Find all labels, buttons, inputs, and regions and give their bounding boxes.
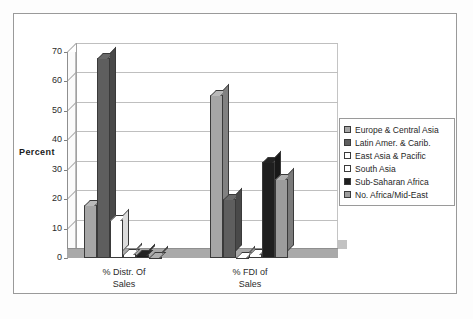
chart-page: 010203040506070 % Distr. OfSales% FDI of… — [0, 0, 473, 319]
plot-floor-right — [338, 240, 347, 249]
x-axis-label: % FDI ofSales — [190, 266, 310, 290]
legend-item-label: Sub-Saharan Africa — [355, 177, 429, 187]
bar — [136, 255, 149, 258]
bar-side-face — [236, 188, 242, 251]
legend-item-label: Europe & Central Asia — [355, 125, 439, 135]
y-axis-tick-label: 50 — [40, 105, 62, 115]
x-axis-label-line: % Distr. Of — [64, 266, 184, 278]
y-axis-tick-label: 0 — [40, 252, 62, 262]
y-axis-tick-label: 40 — [40, 134, 62, 144]
legend-item-label: East Asia & Pacific — [355, 151, 426, 161]
bar — [275, 179, 288, 258]
legend-item-label: Latin Amer. & Carib. — [355, 138, 431, 148]
bar — [249, 254, 262, 258]
bar — [110, 220, 123, 258]
plot-wall-right-edge — [337, 43, 338, 249]
bar-side-face — [123, 209, 129, 251]
bar — [97, 58, 110, 258]
bar — [210, 95, 223, 258]
legend-swatch-icon — [344, 152, 351, 159]
x-axis-label-line: Sales — [190, 278, 310, 290]
y-axis-tick-label: 60 — [40, 75, 62, 85]
legend: Europe & Central AsiaLatin Amer. & Carib… — [339, 118, 455, 206]
y-axis-title: Percent — [19, 147, 55, 157]
plot-area: 010203040506070 % Distr. OfSales% FDI of… — [14, 14, 458, 295]
chart-frame: 010203040506070 % Distr. OfSales% FDI of… — [13, 13, 457, 294]
gridline — [76, 43, 338, 44]
bar — [236, 257, 249, 259]
legend-item[interactable]: Europe & Central Asia — [344, 123, 451, 136]
legend-item[interactable]: Sub-Saharan Africa — [344, 175, 451, 188]
legend-item-label: No. Africa/Mid-East — [355, 190, 428, 200]
legend-item-label: South Asia — [355, 164, 396, 174]
legend-item[interactable]: East Asia & Pacific — [344, 149, 451, 162]
legend-swatch-icon — [344, 191, 351, 198]
legend-swatch-icon — [344, 178, 351, 185]
bar — [84, 205, 97, 258]
legend-swatch-icon — [344, 126, 351, 133]
legend-item[interactable]: Latin Amer. & Carib. — [344, 136, 451, 149]
y-axis-line — [67, 52, 68, 258]
y-axis-tick-label: 20 — [40, 193, 62, 203]
bar-side-face — [288, 167, 294, 251]
legend-swatch-icon — [344, 139, 351, 146]
x-axis-label: % Distr. OfSales — [64, 266, 184, 290]
legend-swatch-icon — [344, 165, 351, 172]
y-axis-tick-label: 10 — [40, 223, 62, 233]
x-axis-label-line: % FDI of — [190, 266, 310, 278]
y-axis-tick-label: 70 — [40, 46, 62, 56]
bar — [123, 254, 136, 258]
y-axis-back-line — [76, 43, 77, 249]
legend-item[interactable]: South Asia — [344, 162, 451, 175]
bar — [262, 162, 275, 258]
bar — [223, 199, 236, 258]
x-axis-label-line: Sales — [64, 278, 184, 290]
y-axis-tick-label: 30 — [40, 164, 62, 174]
bar — [149, 257, 162, 259]
legend-item[interactable]: No. Africa/Mid-East — [344, 188, 451, 201]
